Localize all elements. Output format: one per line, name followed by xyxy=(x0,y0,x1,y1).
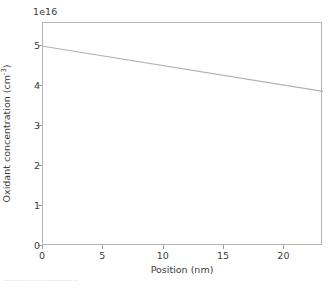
figure-canvas: 1e16 Oxidant concentration (cm-3) 012345… xyxy=(0,0,333,288)
x-tick-label: 10 xyxy=(157,250,169,261)
y-axis-title: Oxidant concentration (cm-3) xyxy=(0,22,14,245)
x-tick-label: 20 xyxy=(277,250,289,261)
y-axis-title-suffix: ) xyxy=(2,65,13,69)
x-tick-label: 15 xyxy=(217,250,229,261)
x-tick-mark xyxy=(223,245,224,249)
y-axis-title-text: Oxidant concentration (cm xyxy=(2,75,13,202)
clipped-caption-strip: ............................. xyxy=(0,280,333,288)
x-tick-mark xyxy=(283,245,284,249)
clipped-caption-text: ............................. xyxy=(4,280,78,283)
x-tick-mark xyxy=(42,245,43,249)
x-axis-title: Position (nm) xyxy=(42,264,322,275)
y-axis-offset-label: 1e16 xyxy=(33,6,57,17)
x-tick-label: 5 xyxy=(99,250,105,261)
series-oxidant-concentration-line xyxy=(43,46,323,91)
x-tick-label: 0 xyxy=(39,250,45,261)
y-tick-label: 0 xyxy=(34,240,40,251)
y-axis-title-exponent: -3 xyxy=(0,68,8,75)
y-tick-label: 4 xyxy=(34,80,40,91)
x-tick-mark xyxy=(163,245,164,249)
y-tick-label: 3 xyxy=(34,120,40,131)
x-tick-mark xyxy=(102,245,103,249)
data-line-svg xyxy=(43,23,323,246)
y-tick-label: 2 xyxy=(34,160,40,171)
y-tick-label: 1 xyxy=(34,200,40,211)
plot-area xyxy=(42,22,322,245)
y-tick-label: 5 xyxy=(34,40,40,51)
